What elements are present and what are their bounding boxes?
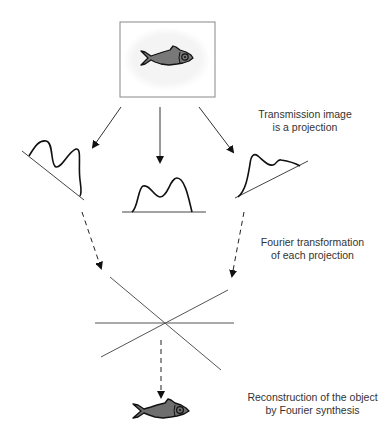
fourier-arrows	[82, 212, 244, 276]
caption-line: is a projection	[250, 121, 360, 134]
caption-line: by Fourier synthesis	[240, 404, 385, 417]
fourier-caption: Fourier transformation of each projectio…	[250, 236, 375, 262]
projection-arrows	[93, 107, 233, 162]
diagram-canvas	[0, 0, 387, 439]
right-projection	[235, 155, 308, 198]
center-projection	[122, 178, 206, 212]
left-projection	[22, 141, 84, 200]
fish-reconstruction-icon	[133, 399, 189, 418]
transmission-caption: Transmission image is a projection	[250, 108, 360, 134]
caption-line: Transmission image	[250, 108, 360, 121]
fourier-space-lines	[95, 277, 234, 370]
caption-line: of each projection	[250, 249, 375, 262]
caption-line: Reconstruction of the object	[240, 391, 385, 404]
caption-line: Fourier transformation	[250, 236, 375, 249]
reconstruction-caption: Reconstruction of the object by Fourier …	[240, 391, 385, 417]
